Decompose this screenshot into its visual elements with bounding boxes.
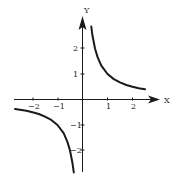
x-tick-label: 2 bbox=[131, 102, 136, 111]
x-tick-label: −2 bbox=[28, 102, 40, 111]
y-tick-label: −1 bbox=[70, 121, 82, 130]
y-tick-label: 2 bbox=[73, 44, 78, 53]
x-tick-label: −1 bbox=[53, 102, 65, 111]
y-tick-label: −2 bbox=[70, 146, 82, 155]
curve-branch-negative bbox=[15, 109, 74, 172]
y-tick-label: 1 bbox=[73, 70, 78, 79]
y-axis-label: Y bbox=[83, 6, 90, 15]
chart-figure: X Y −2 −1 1 2 2 1 −1 −2 bbox=[0, 0, 176, 181]
x-axis-label: X bbox=[164, 96, 170, 105]
curve-branch-positive bbox=[91, 27, 145, 90]
x-tick-label: 1 bbox=[106, 102, 111, 111]
